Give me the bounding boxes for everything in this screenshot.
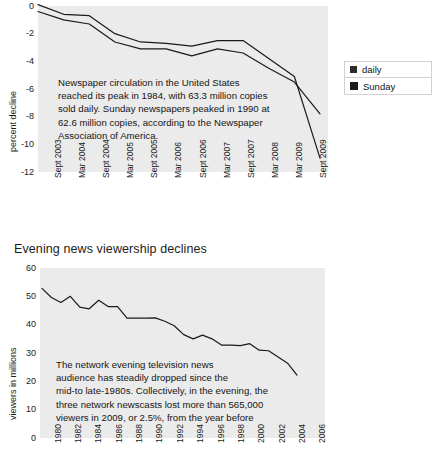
ytick-top-neg10: -10 — [6, 140, 34, 149]
annotation-evening-news-line-1: The network evening television news — [56, 358, 268, 371]
ytick-top-neg8: -8 — [6, 112, 34, 121]
annotation-evening-news-line-3: mid-to late-1980s. Collectively, in the … — [56, 384, 268, 397]
legend-newspaper-circulation: dailySunday — [344, 61, 432, 95]
xtick-top-sept-2006: Sept 2006 — [199, 139, 208, 178]
clipped-header-strip — [38, 0, 328, 4]
xtick-bottom-1988: 1988 — [135, 424, 144, 443]
xtick-top-mar-2004: Mar 2004 — [78, 142, 87, 178]
ytick-bottom-50: 50 — [8, 292, 36, 301]
xtick-bottom-1996: 1996 — [217, 424, 226, 443]
legend-swatch-icon-daily — [350, 66, 357, 73]
xtick-bottom-1990: 1990 — [155, 424, 164, 443]
xtick-top-sept-2007: Sept 2007 — [247, 139, 256, 178]
xtick-top-mar-2006: Mar 2006 — [174, 142, 183, 178]
legend-label-daily: daily — [362, 64, 382, 75]
xtick-top-sept-2003: Sept 2003 — [54, 139, 63, 178]
ytick-top-neg12: -12 — [6, 168, 34, 177]
xtick-bottom-1992: 1992 — [176, 424, 185, 443]
annotation-newspaper-line-1: Newspaper circulation in the United Stat… — [58, 76, 269, 89]
annotation-newspaper-line-3: sold daily. Sunday newspapers peaked in … — [58, 102, 269, 115]
xtick-bottom-2000: 2000 — [257, 424, 266, 443]
annotation-newspaper-line-2: reached its peak in 1984, with 63.3 mill… — [58, 89, 269, 102]
ytick-bottom-30: 30 — [8, 349, 36, 358]
annotation-evening-news-line-5: viewers in 2009, or 2.5%, from the year … — [56, 411, 268, 424]
ytick-bottom-40: 40 — [8, 320, 36, 329]
annotation-newspaper-line-5: Association of America. — [58, 129, 269, 142]
page-title-evening-news: Evening news viewership declines — [14, 242, 207, 256]
legend-swatch-icon-sunday — [350, 82, 358, 90]
ytick-top-neg2: -2 — [6, 29, 34, 38]
xtick-bottom-2004: 2004 — [298, 424, 307, 443]
ytick-top-neg6: -6 — [6, 85, 34, 94]
xtick-bottom-1980: 1980 — [54, 424, 63, 443]
xtick-top-sept-2009: Sept 2009 — [319, 139, 328, 178]
ytick-bottom-10: 10 — [8, 405, 36, 414]
xtick-top-mar-2008: Mar 2008 — [271, 142, 280, 178]
legend-item-daily[interactable]: daily — [344, 61, 432, 78]
xtick-top-mar-2009: Mar 2009 — [295, 142, 304, 178]
xtick-bottom-1984: 1984 — [94, 424, 103, 443]
xtick-bottom-1998: 1998 — [237, 424, 246, 443]
annotation-evening-news: The network evening television newsaudie… — [56, 358, 268, 424]
annotation-evening-news-line-4: three network newscasts lost more than 5… — [56, 398, 268, 411]
legend-item-sunday[interactable]: Sunday — [344, 78, 432, 95]
ytick-bottom-60: 60 — [8, 264, 36, 273]
annotation-newspaper-line-4: 62.6 million copies, according to the Ne… — [58, 116, 269, 129]
annotation-newspaper-circulation: Newspaper circulation in the United Stat… — [58, 76, 269, 142]
xtick-bottom-1982: 1982 — [74, 424, 83, 443]
annotation-evening-news-line-2: audience has steadily dropped since the — [56, 371, 268, 384]
ytick-bottom-20: 20 — [8, 377, 36, 386]
xtick-top-sept-2005: Sept 2005 — [150, 139, 159, 178]
xtick-top-mar-2005: Mar 2005 — [126, 142, 135, 178]
ytick-top-neg4: -4 — [6, 57, 34, 66]
xtick-top-mar-2007: Mar 2007 — [223, 142, 232, 178]
ytick-bottom-0: 0 — [8, 434, 36, 443]
xtick-bottom-1994: 1994 — [196, 424, 205, 443]
xtick-bottom-2002: 2002 — [278, 424, 287, 443]
legend-label-sunday: Sunday — [363, 81, 395, 92]
xtick-bottom-1986: 1986 — [115, 424, 124, 443]
xtick-bottom-2006: 2006 — [318, 424, 327, 443]
ytick-top-0: 0 — [6, 2, 34, 11]
xtick-top-sept-2004: Sept 2004 — [102, 139, 111, 178]
